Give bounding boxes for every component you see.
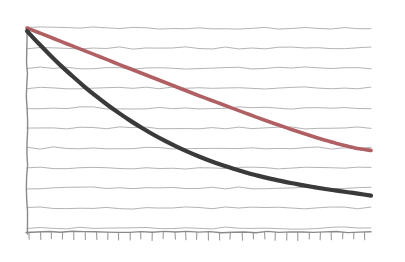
chart-canvas: [0, 0, 405, 262]
chart-background: [0, 0, 405, 262]
sketch-line-chart: [0, 0, 405, 262]
